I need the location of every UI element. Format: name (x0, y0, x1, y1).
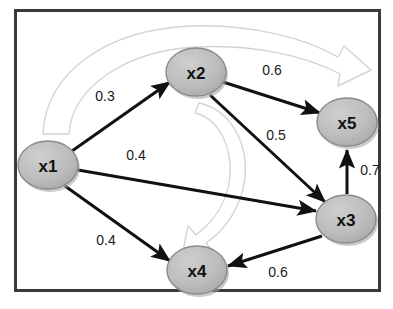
edge-x1-x4 (65, 186, 170, 261)
node-x2[interactable]: x2 (166, 48, 228, 99)
edge-x2-x5 (223, 82, 320, 113)
edge-weight-x1-x4: 0.4 (96, 232, 116, 248)
decor-arc-center (182, 103, 245, 256)
edge-weight-x2-x3: 0.5 (266, 127, 286, 143)
node-x2-label: x2 (187, 64, 206, 83)
node-x1[interactable]: x1 (18, 141, 80, 192)
node-x3[interactable]: x3 (316, 195, 378, 246)
node-x3-label: x3 (337, 211, 356, 230)
edge-weight-x3-x5: 0.7 (360, 162, 380, 178)
graph-figure: x1 x2 x3 x4 x5 (0, 0, 393, 309)
edge-weight-x1-x3: 0.4 (126, 147, 146, 163)
node-x4-label: x4 (188, 262, 207, 281)
edge-x3-x4 (228, 236, 322, 266)
edge-weight-x3-x4: 0.6 (268, 264, 288, 280)
node-x5-label: x5 (338, 114, 357, 133)
edge-x1-x3 (78, 170, 316, 211)
edge-weight-x2-x5: 0.6 (262, 62, 282, 78)
diagram-canvas: x1 x2 x3 x4 x5 (0, 0, 393, 309)
edge-weight-x1-x2: 0.3 (95, 88, 115, 104)
node-x1-label: x1 (39, 157, 58, 176)
node-x5[interactable]: x5 (317, 98, 379, 149)
